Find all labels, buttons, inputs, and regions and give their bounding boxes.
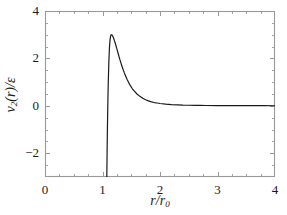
y-tick-label: 2 [33,50,40,66]
data-series-group [107,35,275,177]
x-tick-label: 1 [99,182,106,198]
y-tick-label: −2 [25,145,39,161]
y-tick-label: 0 [33,98,40,114]
x-tick-label: 3 [214,182,221,198]
x-tick-label: 4 [272,182,279,198]
x-axis-label: r/r0 [150,193,169,209]
plot-frame [46,12,275,177]
data-line-0 [107,35,275,177]
minor-tick-marks [45,11,275,177]
y-axis-label: v2(r)/ε [3,78,19,113]
axes-frame [46,12,275,177]
y-tick-label: 4 [33,3,40,19]
major-tick-marks [45,11,275,177]
figure-container: 01234 −2024 r/r0 v2(r)/ε [0,0,287,215]
x-tick-label: 0 [42,182,49,198]
